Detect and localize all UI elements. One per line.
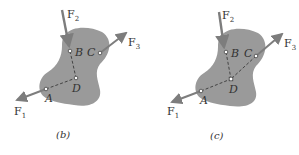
point-d-marker bbox=[229, 77, 233, 81]
point-b-label: B bbox=[230, 47, 239, 60]
point-d-label: D bbox=[228, 83, 238, 96]
force-f1-arrow bbox=[172, 91, 201, 102]
panel-c: B C D A F2 F3 F1 (c) bbox=[167, 9, 296, 141]
force-f3-label: F3 bbox=[128, 36, 140, 51]
point-b-marker bbox=[224, 50, 228, 54]
point-a-marker bbox=[199, 89, 203, 93]
point-b-label: B bbox=[74, 46, 83, 59]
point-a-label: A bbox=[44, 92, 53, 105]
force-f2-label: F2 bbox=[222, 9, 234, 24]
panel-c-caption: (c) bbox=[210, 130, 224, 141]
force-f1-arrow bbox=[17, 89, 46, 100]
point-a-marker bbox=[44, 87, 48, 91]
point-c-label: C bbox=[87, 46, 96, 59]
point-c-marker bbox=[254, 54, 258, 58]
force-f3-label: F3 bbox=[284, 37, 296, 52]
force-f1-label: F1 bbox=[167, 105, 179, 120]
force-f1-label: F1 bbox=[14, 105, 26, 120]
point-d-marker bbox=[74, 76, 78, 80]
point-c-marker bbox=[98, 51, 102, 55]
panel-b: B C D A F2 F3 F1 (b) bbox=[14, 8, 140, 140]
point-a-label: A bbox=[199, 94, 208, 107]
force-f2-label: F2 bbox=[67, 8, 79, 23]
point-d-label: D bbox=[71, 82, 81, 95]
point-c-label: C bbox=[244, 47, 253, 60]
panel-b-caption: (b) bbox=[56, 129, 70, 140]
point-b-marker bbox=[68, 49, 72, 53]
diagram-canvas: B C D A F2 F3 F1 (b) B C D A F2 F3 F1 (c… bbox=[0, 0, 299, 155]
